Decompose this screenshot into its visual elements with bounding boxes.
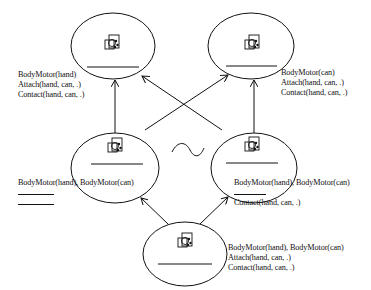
label-line: BodyMotor(hand), BodyMotor(can) (234, 178, 350, 188)
blank-line (18, 204, 54, 205)
label-line: Contact(hand, can, .) (228, 263, 344, 273)
label-line: Contact(hand, can, .) (281, 88, 347, 98)
equivalence-tilde-icon (172, 144, 204, 156)
label-top-right: BodyMotor(can) Attach(hand, can, .) Cont… (281, 68, 347, 98)
robot-hand-can-icon (245, 137, 259, 151)
edge-bottom-to-middle-left (141, 198, 168, 224)
robot-hand-can-icon (108, 138, 122, 152)
label-line: Contact(hand, can, .) (234, 198, 350, 208)
label-line: BodyMotor(hand), BodyMotor(can) (18, 178, 134, 188)
label-line: Contact(hand, can, .) (18, 90, 84, 100)
label-line: Attach(hand, can, .) (281, 78, 347, 88)
label-line: BodyMotor(can) (281, 68, 347, 78)
edge-middle-right-to-top-left (142, 76, 222, 130)
label-line: Attach(hand, can, .) (18, 80, 84, 90)
label-top-left: BodyMotor(hand) Attach(hand, can, .) Con… (18, 70, 84, 100)
label-line: BodyMotor(hand) (18, 70, 84, 80)
blank-line (234, 194, 266, 195)
edge-middle-left-to-top-right (145, 75, 228, 130)
robot-hand-can-icon (105, 35, 119, 49)
robot-hand-can-icon (245, 35, 259, 49)
label-middle-left: BodyMotor(hand), BodyMotor(can) (18, 178, 134, 208)
node-bottom (143, 222, 227, 286)
blank-line (18, 194, 54, 195)
robot-hand-can-icon (178, 233, 192, 247)
edge-bottom-to-middle-right (200, 197, 228, 224)
label-line: Attach(hand, can, .) (228, 253, 344, 263)
label-middle-right: BodyMotor(hand), BodyMotor(can) Contact(… (234, 178, 350, 208)
label-line: BodyMotor(hand), BodyMotor(can) (228, 243, 344, 253)
label-bottom: BodyMotor(hand), BodyMotor(can) Attach(h… (228, 243, 344, 273)
